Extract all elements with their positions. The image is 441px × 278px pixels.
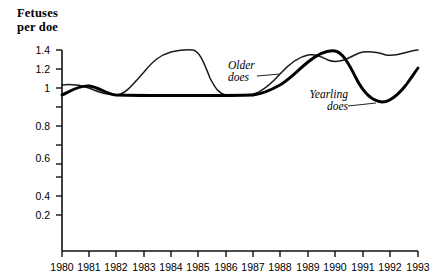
x-tick-label-1980: 1980 bbox=[50, 261, 73, 273]
y-tick-label-1.4: 1.4 bbox=[24, 44, 50, 56]
x-tick-label-1988: 1988 bbox=[268, 261, 291, 273]
x-tick-label-1983: 1983 bbox=[132, 261, 155, 273]
series-label-older-does-line1: Older bbox=[228, 59, 255, 71]
y-tick-label-0.2: 0.2 bbox=[24, 209, 50, 221]
leader-line-older-does bbox=[257, 74, 280, 76]
y-tick-label-0.6: 0.6 bbox=[24, 152, 50, 164]
chart-plot-area bbox=[0, 0, 441, 278]
x-tick-label-1982: 1982 bbox=[104, 261, 127, 273]
x-tick-label-1985: 1985 bbox=[186, 261, 209, 273]
x-tick-label-1989: 1989 bbox=[296, 261, 319, 273]
y-tick-label-1: 1 bbox=[24, 82, 50, 94]
x-tick-label-1984: 1984 bbox=[159, 261, 182, 273]
series-label-older-does: Older does bbox=[228, 60, 255, 83]
x-tick-label-1986: 1986 bbox=[214, 261, 237, 273]
series-label-yearling-does-line1: Yearling bbox=[309, 88, 348, 100]
x-tick-label-1993: 1993 bbox=[406, 261, 429, 273]
chart-figure: Fetuses per doe bbox=[0, 0, 441, 278]
x-tick-label-1987: 1987 bbox=[241, 261, 264, 273]
x-tick-label-1981: 1981 bbox=[77, 261, 100, 273]
series-label-yearling-does-line2: does bbox=[327, 100, 348, 112]
series-label-yearling-does: Yearling does bbox=[294, 89, 348, 112]
x-tick-label-1990: 1990 bbox=[323, 261, 346, 273]
y-tick-label-0.8: 0.8 bbox=[24, 120, 50, 132]
x-tick-label-1991: 1991 bbox=[351, 261, 374, 273]
y-axis-ticks bbox=[56, 50, 62, 215]
leader-line-yearling-does bbox=[348, 103, 376, 106]
x-axis-ticks bbox=[62, 251, 418, 257]
y-tick-label-0.4: 0.4 bbox=[24, 190, 50, 202]
series-label-older-does-line2: does bbox=[228, 71, 249, 83]
x-tick-label-1992: 1992 bbox=[378, 261, 401, 273]
y-tick-label-1.2: 1.2 bbox=[24, 63, 50, 75]
